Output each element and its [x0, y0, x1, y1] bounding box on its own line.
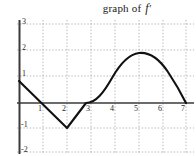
curve-f-prime — [19, 53, 186, 128]
x-tick-label-4: 4 — [110, 105, 114, 113]
chart-plot-area — [0, 0, 196, 156]
graph-screenshot: graph off′ 3 2 1 -1 -2 1 2 — [0, 0, 196, 156]
vertical-gridlines — [43, 20, 186, 154]
x-tick-label-7: 7 — [181, 105, 185, 113]
x-tick-label-1: 1 — [38, 105, 42, 113]
y-tick-label-neg1: -1 — [21, 121, 28, 129]
x-tick-label-5: 5 — [134, 105, 138, 113]
y-tick-label-1: 1 — [22, 70, 26, 78]
x-tick-label-3: 3 — [86, 105, 90, 113]
y-tick-label-3: 3 — [22, 18, 26, 26]
y-tick-label-2: 2 — [22, 44, 26, 52]
x-tick-label-6: 6 — [158, 105, 162, 113]
y-tick-label-neg2: -2 — [21, 146, 28, 154]
x-tick-label-2: 2 — [62, 105, 66, 113]
